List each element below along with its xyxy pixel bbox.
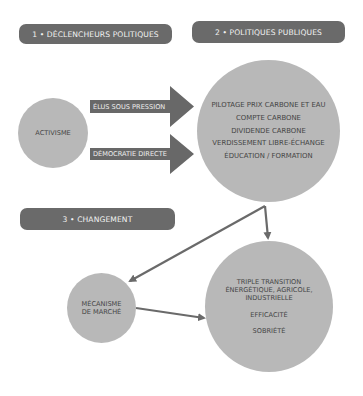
header-step3-label: 3 • CHANGEMENT	[63, 215, 133, 224]
efficacite-label: EFFICACITÉ	[250, 311, 287, 319]
policy-item: PILOTAGE PRIX CARBONE ET EAU	[211, 99, 325, 112]
sobriete-label: SOBRIÉTÉ	[253, 327, 286, 335]
header-step2-label: 2 • POLITIQUES PUBLIQUES	[215, 28, 322, 37]
node-activisme: ACTIVISME	[18, 98, 88, 168]
connector-arrow-mecanisme-to-changement	[136, 308, 204, 318]
header-step1: 1 • DÉCLENCHEURS POLITIQUES	[19, 24, 172, 44]
header-step3: 3 • CHANGEMENT	[20, 208, 175, 230]
policy-item: DIVIDENDE CARBONE	[231, 125, 306, 138]
node-changement: TRIPLE TRANSITION ÉNERGÉTIQUE, AGRICOLE,…	[205, 241, 333, 372]
node-politiques-publiques: PILOTAGE PRIX CARBONE ET EAU COMPTE CARB…	[197, 60, 340, 202]
header-step2: 2 • POLITIQUES PUBLIQUES	[192, 21, 345, 43]
header-step1-label: 1 • DÉCLENCHEURS POLITIQUES	[32, 30, 158, 39]
policy-item: COMPTE CARBONE	[236, 112, 301, 125]
node-activisme-label: ACTIVISME	[35, 129, 70, 137]
arrow-label-democratie: DÉMOCRATIE DIRECTE	[90, 148, 167, 160]
arrow-label-elus: ÉLUS SOUS PRESSION	[90, 100, 165, 113]
policy-item: VERDISSEMENT LIBRE-ÉCHANGE	[212, 137, 324, 150]
node-mecanisme-de-marche: MÉCANISME DE MARCHÉ	[67, 273, 136, 343]
connector-arrow-to-changement	[265, 206, 268, 238]
policy-item: ÉDUCATION / FORMATION	[224, 150, 312, 163]
